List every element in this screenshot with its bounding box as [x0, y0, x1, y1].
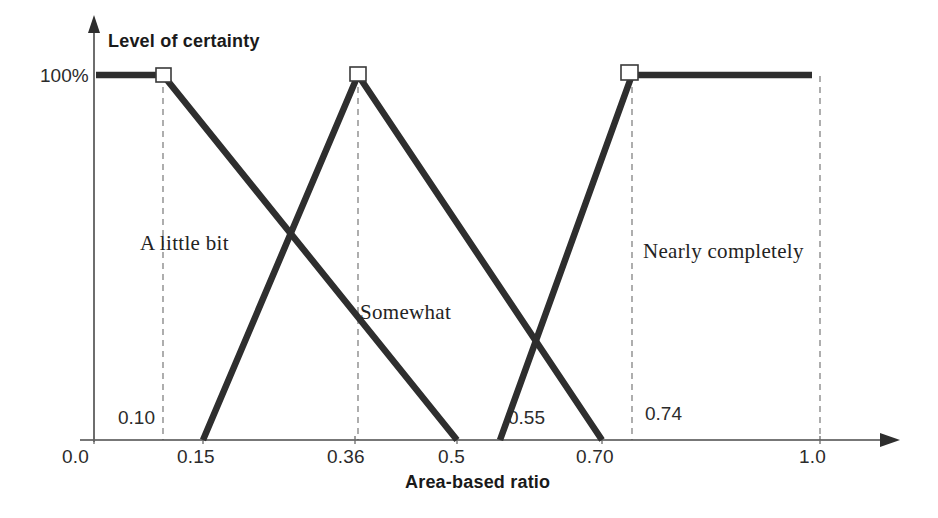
x-tick-label-5: 1.0	[799, 447, 826, 466]
x-axis-arrow-icon	[880, 433, 900, 447]
x-tick-label-1: 0.15	[177, 447, 215, 466]
curve-a-little-bit	[96, 75, 457, 440]
peak-marker-0.74	[621, 65, 638, 80]
set-label-somewhat: Somewhat	[360, 302, 451, 323]
x-axis-title: Area-based ratio	[405, 473, 550, 491]
peak-marker-0.36	[350, 67, 366, 81]
breakpoint-label-0.55: 0.55	[508, 408, 545, 427]
breakpoint-label-0.10: 0.10	[118, 408, 155, 427]
y-axis	[88, 15, 100, 442]
peak-markers	[156, 65, 638, 82]
breakpoint-label-0.74: 0.74	[645, 404, 682, 423]
x-tick-label-2: 0.36	[327, 447, 365, 466]
x-tick-label-3: 0.5	[438, 447, 465, 466]
curve-somewhat	[203, 75, 602, 440]
y-axis-title: Level of certainty	[108, 32, 260, 50]
x-tick-label-0: 0.0	[62, 447, 89, 466]
x-tick-label-4: 0.70	[576, 447, 614, 466]
set-label-a-little-bit: A little bit	[140, 233, 229, 254]
fuzzy-membership-chart: Level of certainty 100% 0.0 0.15 0.36 0.…	[0, 0, 938, 518]
peak-marker-0.10	[156, 68, 171, 82]
y-axis-arrow-icon	[88, 15, 100, 33]
y-tick-label-100: 100%	[40, 66, 89, 85]
set-label-nearly-completely: Nearly completely	[643, 241, 804, 262]
